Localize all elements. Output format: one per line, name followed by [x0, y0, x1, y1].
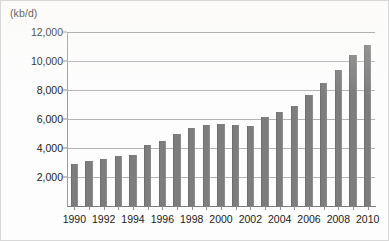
- bar: [115, 156, 123, 206]
- bar: [291, 106, 299, 206]
- bar: [276, 112, 284, 206]
- bar: [71, 164, 79, 206]
- x-axis-tick-mark: [236, 206, 237, 210]
- x-axis-tick-mark: [221, 206, 222, 210]
- x-axis-tick-label: 2008: [327, 213, 350, 225]
- x-axis-tick-mark: [148, 206, 149, 210]
- x-axis-tick-mark: [206, 206, 207, 210]
- x-axis-tick-mark: [265, 206, 266, 210]
- gridline: [67, 90, 375, 91]
- x-axis-tick-label: 2006: [297, 213, 320, 225]
- bar: [188, 128, 196, 206]
- bar: [173, 134, 181, 207]
- y-axis-unit-label: (kb/d): [10, 7, 37, 19]
- bar: [305, 95, 313, 206]
- bar: [217, 124, 225, 206]
- x-axis-tick-mark: [324, 206, 325, 210]
- x-axis-tick-mark: [133, 206, 134, 210]
- x-axis-tick-label: 2000: [209, 213, 232, 225]
- bar: [159, 141, 167, 206]
- x-axis-tick-mark: [309, 206, 310, 210]
- x-axis-tick-label: 1990: [63, 213, 86, 225]
- x-axis-tick-mark: [368, 206, 369, 210]
- gridline: [67, 119, 375, 120]
- bar: [85, 161, 93, 206]
- x-axis-tick-label: 2002: [239, 213, 262, 225]
- bar: [320, 83, 328, 206]
- x-axis-tick-label: 1994: [121, 213, 144, 225]
- x-axis-tick-mark: [74, 206, 75, 210]
- x-axis-tick-label: 2010: [356, 213, 379, 225]
- bar: [349, 55, 357, 206]
- x-axis-tick-mark: [338, 206, 339, 210]
- x-axis-tick-mark: [177, 206, 178, 210]
- bar-chart-figure: (kb/d) 12,00010,0008,0006,0004,0002,000 …: [0, 0, 389, 241]
- bar: [100, 159, 108, 206]
- gridline: [67, 61, 375, 62]
- x-axis-tick-mark: [118, 206, 119, 210]
- x-axis-tick-label: 2004: [268, 213, 291, 225]
- plot-area: [67, 32, 375, 206]
- x-axis-tick-mark: [192, 206, 193, 210]
- bar: [261, 117, 269, 206]
- bar: [129, 155, 137, 206]
- x-axis-tick-mark: [89, 206, 90, 210]
- bar: [203, 125, 211, 206]
- x-axis-tick-mark: [104, 206, 105, 210]
- bar: [144, 145, 152, 206]
- y-axis-tick-mark-group: [1, 32, 67, 206]
- x-axis-tick-mark: [280, 206, 281, 210]
- x-axis-tick-mark: [294, 206, 295, 210]
- bar: [364, 45, 372, 206]
- x-axis-tick-label: 1998: [180, 213, 203, 225]
- bar: [335, 70, 343, 206]
- bar: [232, 125, 240, 206]
- x-axis-tick-label: 1992: [92, 213, 115, 225]
- x-axis-tick-mark: [250, 206, 251, 210]
- x-axis-tick-label: 1996: [151, 213, 174, 225]
- gridline: [67, 32, 375, 33]
- x-axis-tick-mark: [353, 206, 354, 210]
- bar: [247, 126, 255, 206]
- x-axis-tick-mark: [162, 206, 163, 210]
